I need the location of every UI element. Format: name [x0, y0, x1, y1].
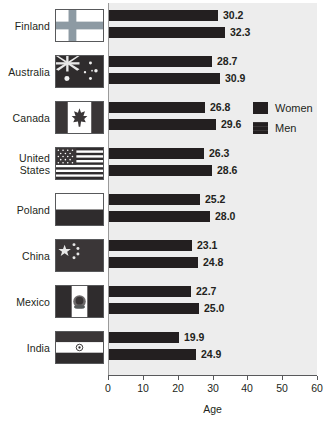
- bar-women-canada: [109, 102, 205, 113]
- x-axis-tick-label: 30: [207, 382, 219, 394]
- bar-men-united-states: [109, 165, 212, 176]
- x-axis-tick: [247, 376, 248, 380]
- bar-value-women-finland: 30.2: [223, 10, 243, 21]
- bar-women-finland: [109, 10, 218, 21]
- bar-value-women-united-states: 26.3: [209, 148, 229, 159]
- bar-men-australia: [109, 73, 220, 84]
- x-axis-tick: [143, 376, 144, 380]
- bar-value-men-china: 24.8: [203, 257, 223, 268]
- flag-india-icon: [55, 331, 104, 364]
- category-label-finland: Finland: [0, 20, 50, 32]
- flag-china-icon: [55, 239, 104, 272]
- category-label-india: India: [0, 342, 50, 354]
- bar-value-women-mexico: 22.7: [196, 286, 216, 297]
- chart-row-finland: Finland 30.2 32.3: [0, 3, 335, 49]
- x-axis-tick: [178, 376, 179, 380]
- x-axis-tick-label: 0: [105, 382, 111, 394]
- bar-women-united-states: [109, 148, 204, 159]
- x-axis-tick: [108, 376, 109, 380]
- bar-men-poland: [109, 211, 210, 222]
- category-label-china: China: [0, 250, 50, 262]
- x-axis-tick-label: 20: [172, 382, 184, 394]
- bar-women-poland: [109, 194, 200, 205]
- chart-row-poland: Poland 25.2 28.0: [0, 187, 335, 233]
- bar-value-women-india: 19.9: [184, 332, 204, 343]
- flag-mexico-icon: [55, 285, 104, 318]
- bar-women-china: [109, 240, 192, 251]
- category-label-canada: Canada: [0, 112, 50, 124]
- flag-united-states-icon: [55, 147, 104, 180]
- legend-label-women: Women: [275, 100, 313, 116]
- x-axis-tick-label: 40: [241, 382, 253, 394]
- bar-value-men-poland: 28.0: [215, 211, 235, 222]
- bar-value-men-india: 24.9: [201, 349, 221, 360]
- chart-row-mexico: Mexico 22.7 25.0: [0, 279, 335, 325]
- x-axis-tick-label: 60: [311, 382, 323, 394]
- bar-value-women-poland: 25.2: [205, 194, 225, 205]
- bar-men-finland: [109, 27, 225, 38]
- bar-men-canada: [109, 119, 216, 130]
- x-axis-tick: [213, 376, 214, 380]
- x-axis-title: Age: [108, 403, 317, 415]
- category-label-australia: Australia: [0, 66, 50, 78]
- flag-poland-icon: [55, 193, 104, 226]
- bar-women-australia: [109, 56, 212, 67]
- bar-value-men-canada: 29.6: [221, 119, 241, 130]
- bar-value-women-china: 23.1: [197, 240, 217, 251]
- bar-women-india: [109, 332, 179, 343]
- chart-row-india: India 19.9 24.9: [0, 325, 335, 371]
- flag-finland-icon: [55, 9, 104, 42]
- bar-value-men-mexico: 25.0: [204, 303, 224, 314]
- bar-men-mexico: [109, 303, 199, 314]
- bar-value-women-australia: 28.7: [217, 56, 237, 67]
- x-axis-tick: [282, 376, 283, 380]
- x-axis-tick-label: 10: [137, 382, 149, 394]
- bar-men-china: [109, 257, 198, 268]
- category-label-line2: States: [0, 164, 50, 176]
- chart-row-australia: Australia 28.7 30.9: [0, 49, 335, 95]
- legend-item-men: Men: [253, 120, 328, 140]
- bar-value-men-australia: 30.9: [225, 73, 245, 84]
- chart-row-china: China 23.1 24.8: [0, 233, 335, 279]
- category-label-poland: Poland: [0, 204, 50, 216]
- flag-canada-icon: [55, 101, 104, 134]
- x-axis-tick: [317, 376, 318, 380]
- chart-legend: Women Men: [253, 100, 328, 140]
- legend-swatch-men-icon: [253, 122, 268, 134]
- bar-value-men-finland: 32.3: [230, 27, 250, 38]
- category-label-line1: United: [0, 152, 50, 164]
- x-axis-tick-label: 50: [276, 382, 288, 394]
- bar-value-women-canada: 26.8: [210, 102, 230, 113]
- bar-value-men-united-states: 28.6: [217, 165, 237, 176]
- chart-row-united-states: United States: [0, 141, 335, 187]
- horizontal-bar-chart: Finland 30.2 32.3 Australia: [0, 0, 335, 425]
- legend-swatch-women-icon: [253, 102, 268, 114]
- category-label-united-states: United States: [0, 152, 50, 176]
- bar-women-mexico: [109, 286, 191, 297]
- legend-item-women: Women: [253, 100, 328, 120]
- bar-men-india: [109, 349, 196, 360]
- category-label-mexico: Mexico: [0, 296, 50, 308]
- legend-label-men: Men: [275, 120, 296, 136]
- flag-australia-icon: [55, 55, 104, 88]
